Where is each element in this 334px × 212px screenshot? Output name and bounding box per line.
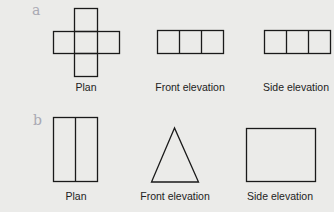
a-plan-cross: [54, 9, 120, 77]
b-side-elevation-rect: [247, 129, 316, 182]
orthographic-diagram: [0, 0, 334, 212]
a-side-caption: Side elevation: [263, 81, 329, 93]
a-front-elevation: [158, 31, 224, 54]
b-side-caption: Side elevation: [247, 190, 313, 202]
b-plan: [54, 118, 98, 182]
a-plan-caption: Plan: [75, 81, 96, 93]
b-plan-caption: Plan: [65, 190, 86, 202]
a-front-caption: Front elevation: [155, 81, 224, 93]
a-side-elevation: [265, 31, 331, 54]
b-front-caption: Front elevation: [140, 190, 209, 202]
b-front-elevation-triangle: [152, 128, 199, 182]
